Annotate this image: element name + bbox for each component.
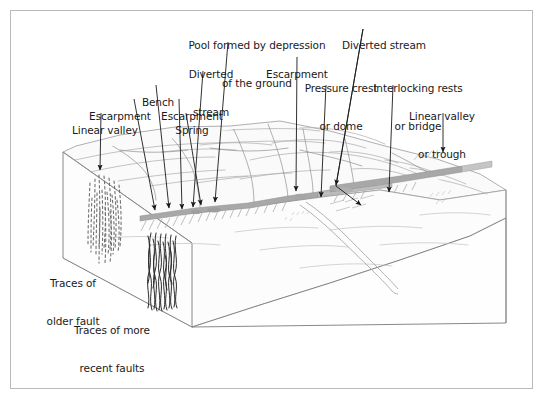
label-linear-valley: Linear valley <box>60 99 150 162</box>
label-spring: Spring <box>162 99 222 162</box>
label-line: Diverted stream <box>334 39 434 52</box>
label-line: Traces of more <box>52 324 172 337</box>
label-traces-of-more-recent-faults: Traces of more recent faults <box>52 299 172 400</box>
figure-root: Pool formed by depression of the ground … <box>0 0 545 401</box>
label-line: Linear valley <box>397 110 487 123</box>
label-linear-valley-or-trough: Linear valley or trough <box>397 85 487 186</box>
label-line: or trough <box>397 148 487 161</box>
label-line: Linear valley <box>60 124 150 137</box>
label-line: recent faults <box>52 362 172 375</box>
label-line: Traces of <box>28 277 118 290</box>
label-line: Spring <box>162 124 222 137</box>
